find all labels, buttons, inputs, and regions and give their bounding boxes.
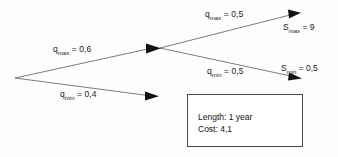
edge-label-root-upper-value: = 0,6	[69, 44, 91, 54]
edge-label-root-lower-sub: min	[65, 95, 75, 101]
edge-label-node-upper-sub: max	[210, 15, 221, 21]
info-box-length-line: Length: 1 year	[198, 112, 252, 124]
edge-label-node-lower-value: = 0,5	[222, 66, 244, 76]
terminal-label-s-max-value: = 9	[300, 22, 314, 32]
edge-label-root-lower-value: = 0,4	[75, 89, 97, 99]
diagram-canvas: qmax = 0,6 qmin = 0,4 qmax = 0,5 qmin = …	[0, 0, 338, 157]
edge-label-node-upper: qmax = 0,5	[205, 9, 243, 21]
info-box: Length: 1 year Cost: 4,1	[187, 94, 303, 147]
edge-label-node-lower-sub: min	[212, 72, 222, 78]
edge-label-node-lower: qmin = 0,5	[207, 66, 244, 78]
info-box-cost-line: Cost: 4,1	[198, 124, 252, 136]
edge-label-root-upper: qmax = 0,6	[53, 44, 91, 56]
arrowhead-upper-leaf-icon	[288, 10, 301, 19]
terminal-label-s-min-value: = 0,5	[296, 63, 318, 73]
edge-label-root-lower: qmin = 0,4	[60, 89, 97, 101]
edge-label-node-upper-value: = 0,5	[221, 9, 243, 19]
info-box-text: Length: 1 year Cost: 4,1	[198, 112, 252, 135]
terminal-label-s-min: Smin = 0,5	[281, 63, 318, 75]
arrowhead-bottom-leaf-icon	[145, 92, 159, 101]
arrowhead-mid-node-icon	[146, 44, 161, 54]
terminal-label-s-max: Smax = 9	[283, 22, 314, 34]
terminal-label-s-min-sub: min	[287, 69, 297, 75]
edge-label-root-upper-sub: max	[58, 50, 69, 56]
terminal-label-s-max-sub: max	[289, 28, 300, 34]
